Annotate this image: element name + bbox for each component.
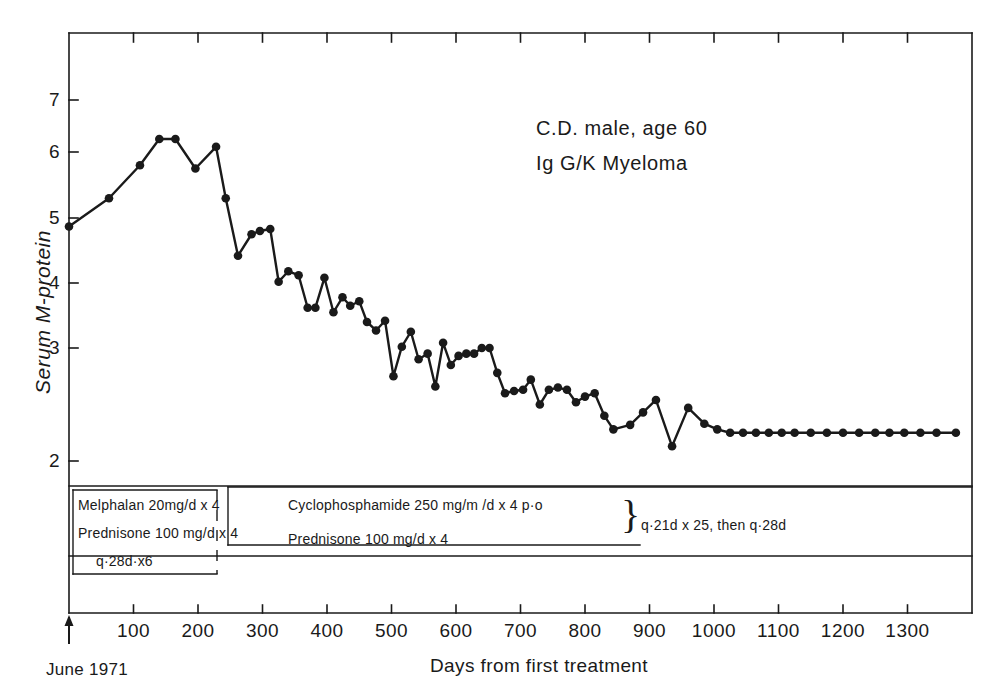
- data-point: [739, 428, 748, 437]
- data-point: [777, 428, 786, 437]
- data-point: [338, 293, 347, 302]
- data-point: [519, 386, 528, 395]
- data-point: [171, 135, 180, 144]
- data-point: [247, 230, 256, 239]
- x-tick-label: 100: [117, 620, 150, 642]
- data-point: [563, 386, 572, 395]
- data-point: [639, 408, 648, 417]
- data-point: [572, 398, 581, 407]
- data-point: [414, 355, 423, 364]
- data-point: [609, 425, 618, 434]
- data-point: [684, 404, 693, 413]
- data-point: [590, 389, 599, 398]
- y-tick-label: 2: [30, 450, 60, 472]
- data-point: [536, 400, 545, 409]
- data-point: [191, 164, 200, 173]
- y-tick-label: 7: [30, 89, 60, 111]
- data-point: [284, 267, 293, 276]
- y-tick-label: 3: [30, 337, 60, 359]
- x-tick-label: 300: [246, 620, 279, 642]
- data-point: [234, 251, 243, 260]
- data-point: [952, 428, 961, 437]
- data-point: [668, 442, 677, 451]
- x-tick-label: 500: [375, 620, 408, 642]
- data-point: [510, 387, 519, 396]
- data-point: [136, 161, 145, 170]
- data-point: [713, 425, 722, 434]
- data-point: [311, 303, 320, 312]
- data-point: [626, 421, 635, 430]
- data-point: [839, 428, 848, 437]
- data-point: [65, 222, 74, 231]
- data-point: [212, 143, 221, 152]
- data-point: [454, 352, 463, 361]
- y-tick-label: 4: [30, 272, 60, 294]
- data-point: [423, 349, 432, 358]
- y-tick-label: 6: [30, 141, 60, 163]
- data-point: [274, 277, 283, 286]
- x-tick-label: 900: [633, 620, 666, 642]
- data-point: [155, 135, 164, 144]
- data-point: [932, 428, 941, 437]
- data-point: [871, 428, 880, 437]
- data-point: [485, 344, 494, 353]
- data-point: [431, 382, 440, 391]
- data-point: [600, 412, 609, 421]
- data-point: [363, 318, 372, 327]
- data-point: [355, 297, 364, 306]
- x-tick-label: 400: [310, 620, 343, 642]
- x-tick-label: 700: [504, 620, 537, 642]
- data-point: [470, 349, 479, 358]
- data-point: [900, 428, 909, 437]
- y-tick-label: 5: [30, 207, 60, 229]
- data-point: [527, 375, 536, 384]
- data-point: [493, 369, 502, 378]
- x-tick-label: 1100: [757, 620, 800, 642]
- data-point: [266, 225, 275, 234]
- data-point: [389, 372, 398, 381]
- data-point: [726, 428, 735, 437]
- data-point: [346, 301, 355, 310]
- x-tick-label: 1300: [885, 620, 929, 642]
- data-point: [329, 308, 338, 317]
- data-point: [700, 419, 709, 428]
- x-tick-label: 600: [439, 620, 472, 642]
- x-tick-label: 1000: [692, 620, 736, 642]
- data-point: [478, 344, 487, 353]
- data-point: [806, 428, 815, 437]
- data-point: [916, 428, 925, 437]
- data-point: [447, 361, 456, 370]
- data-point: [294, 271, 303, 280]
- data-point: [885, 428, 894, 437]
- data-point: [752, 428, 761, 437]
- data-point: [765, 428, 774, 437]
- data-point: [372, 326, 381, 335]
- data-point: [652, 396, 661, 405]
- data-point: [221, 194, 230, 203]
- data-point: [462, 349, 471, 358]
- data-point: [303, 303, 312, 312]
- x-tick-label: 200: [181, 620, 214, 642]
- data-point: [105, 194, 114, 203]
- data-point: [398, 342, 407, 351]
- data-point: [256, 227, 265, 236]
- data-point: [554, 383, 563, 392]
- x-tick-label: 800: [568, 620, 601, 642]
- data-point: [855, 428, 864, 437]
- chart-canvas: [0, 0, 997, 697]
- x-tick-label: 1200: [821, 620, 865, 642]
- data-point: [790, 428, 799, 437]
- data-point: [501, 389, 510, 398]
- chart-figure: Serum M-protein Days from first treatmen…: [0, 0, 997, 697]
- data-point: [320, 274, 329, 283]
- data-point: [439, 339, 448, 348]
- data-point: [823, 428, 832, 437]
- data-point: [407, 327, 416, 336]
- data-point: [545, 386, 554, 395]
- data-point: [581, 392, 590, 401]
- data-point: [381, 316, 390, 325]
